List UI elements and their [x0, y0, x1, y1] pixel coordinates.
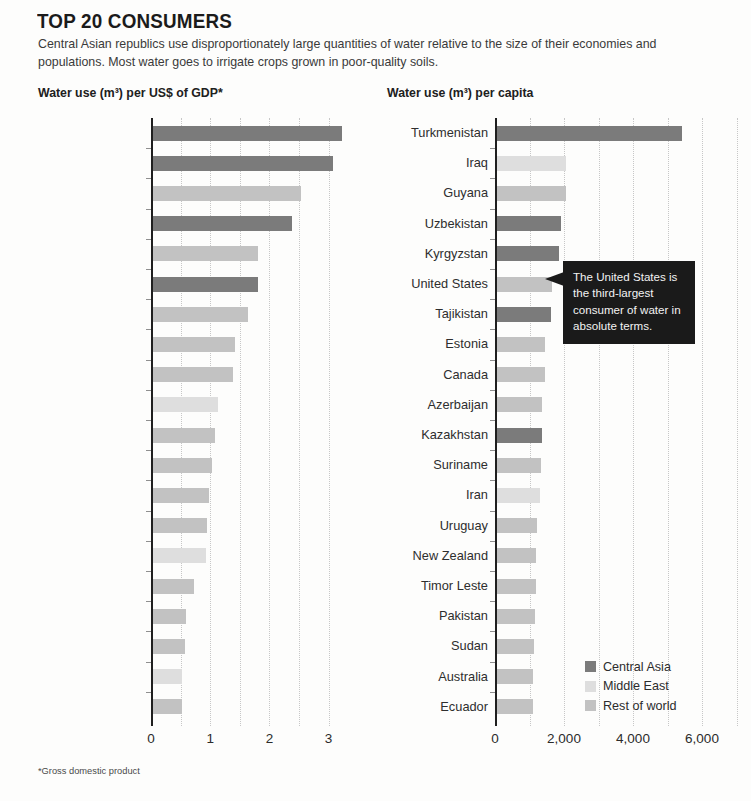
axis-tick: [490, 178, 495, 179]
bar: [497, 337, 545, 352]
legend-swatch-icon: [585, 661, 596, 672]
bar-category-label: Iraq: [466, 148, 494, 178]
bar-category-label: Tajikistan: [435, 299, 494, 329]
bar: [497, 488, 540, 503]
page-subtitle: Central Asian republics use disproportio…: [38, 36, 678, 71]
bar-category-label: Guyana: [443, 178, 494, 208]
bar: [497, 307, 552, 322]
bar-category-label: Iran: [466, 480, 494, 510]
bar-row: Uruguay: [0, 511, 751, 541]
bar-row: Azerbaijan: [0, 390, 751, 420]
bar: [497, 669, 534, 684]
x-axis-tick-label: 6,000: [685, 731, 719, 746]
bar-chart-water-per-capita: TurkmenistanIraqGuyanaUzbekistanKyrgyzst…: [0, 112, 751, 752]
bar: [497, 216, 562, 231]
bar: [497, 548, 537, 563]
legend-label: Middle East: [603, 679, 669, 693]
axis-tick: [490, 631, 495, 632]
x-axis-tick-label: 2,000: [547, 731, 581, 746]
axis-tick: [490, 662, 495, 663]
axis-tick: [490, 480, 495, 481]
bar: [497, 367, 545, 382]
bar-category-label: Sudan: [451, 631, 494, 661]
callout-box: The United States is the third-largest c…: [563, 261, 695, 344]
chart-title-gdp: Water use (m³) per US$ of GDP*: [38, 86, 223, 100]
bar-row: Uzbekistan: [0, 209, 751, 239]
bar-category-label: Kazakhstan: [421, 420, 494, 450]
bar: [497, 458, 542, 473]
bar-row: Turkmenistan: [0, 118, 751, 148]
axis-tick: [490, 329, 495, 330]
x-axis-tick-label: 4,000: [616, 731, 650, 746]
bar-category-label: Canada: [443, 360, 494, 390]
page-title: TOP 20 CONSUMERS: [37, 9, 232, 33]
bar-row: Canada: [0, 360, 751, 390]
bar: [497, 699, 533, 714]
bar: [497, 246, 559, 261]
legend-item: Middle East: [585, 677, 677, 697]
bar: [497, 609, 536, 624]
bar-row: Pakistan: [0, 601, 751, 631]
bar: [497, 579, 536, 594]
x-axis-tick-label: 0: [491, 731, 499, 746]
axis-tick: [490, 420, 495, 421]
legend-swatch-icon: [585, 700, 596, 711]
bar: [497, 428, 543, 443]
legend-label: Central Asia: [603, 660, 671, 674]
axis-tick: [490, 360, 495, 361]
axis-tick: [490, 299, 495, 300]
bar: [497, 156, 566, 171]
bar-category-label: Pakistan: [439, 601, 494, 631]
bar-category-label: Suriname: [433, 450, 494, 480]
axis-tick: [490, 239, 495, 240]
bar: [497, 639, 534, 654]
bar-category-label: Australia: [438, 662, 494, 692]
axis-tick: [490, 692, 495, 693]
chart-legend: Central AsiaMiddle EastRest of world: [585, 657, 677, 716]
legend-label: Rest of world: [603, 699, 677, 713]
infographic-page: TOP 20 CONSUMERS Central Asian republics…: [0, 0, 751, 801]
bar: [497, 397, 543, 412]
bar-row: Iraq: [0, 148, 751, 178]
chart-title-per-capita: Water use (m³) per capita: [387, 86, 533, 100]
bar-category-label: Timor Leste: [421, 571, 494, 601]
bar-category-label: Estonia: [445, 329, 494, 359]
axis-tick: [490, 390, 495, 391]
bar-category-label: Azerbaijan: [428, 390, 494, 420]
axis-tick: [490, 450, 495, 451]
bar-category-label: Turkmenistan: [411, 118, 494, 148]
legend-item: Central Asia: [585, 657, 677, 677]
axis-tick: [490, 269, 495, 270]
bar-category-label: United States: [411, 269, 494, 299]
bar-row: Suriname: [0, 450, 751, 480]
callout-arrow-icon: [545, 272, 564, 286]
bar-category-label: Kyrgyzstan: [425, 239, 494, 269]
axis-tick: [490, 148, 495, 149]
bar-category-label: Uzbekistan: [425, 209, 494, 239]
footnote: *Gross domestic product: [38, 766, 140, 776]
legend-item: Rest of world: [585, 696, 677, 716]
bar: [497, 126, 682, 141]
bar-category-label: Uruguay: [440, 511, 494, 541]
bar: [497, 277, 552, 292]
bar-row: Guyana: [0, 178, 751, 208]
bar: [497, 518, 538, 533]
axis-tick: [490, 601, 495, 602]
axis-tick: [490, 511, 495, 512]
legend-swatch-icon: [585, 681, 596, 692]
axis-tick: [490, 571, 495, 572]
bar-category-label: New Zealand: [413, 541, 494, 571]
bar-row: Kazakhstan: [0, 420, 751, 450]
bar-row: New Zealand: [0, 541, 751, 571]
bar-category-label: Ecuador: [440, 692, 494, 722]
axis-tick: [490, 209, 495, 210]
bar: [497, 186, 566, 201]
axis-tick: [490, 541, 495, 542]
bar-row: Timor Leste: [0, 571, 751, 601]
bar-row: Iran: [0, 480, 751, 510]
